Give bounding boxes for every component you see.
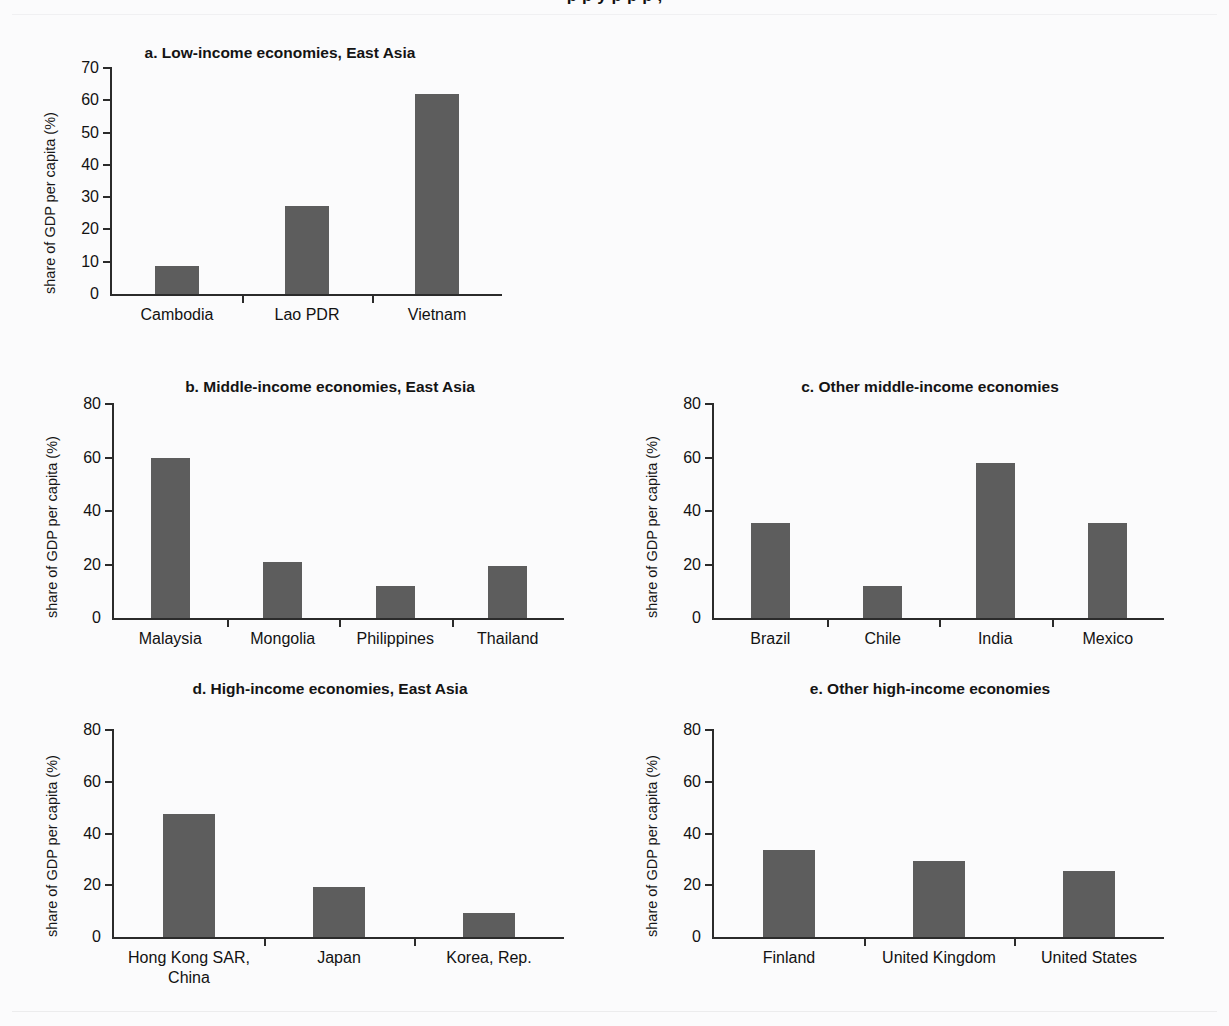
- y-tick-label-b-20: 20: [83, 556, 101, 574]
- bar-e-1: [913, 861, 965, 937]
- x-category-label-d-1: Japan: [264, 948, 414, 968]
- x-tick-a-1: [242, 294, 244, 303]
- bar-c-2: [976, 463, 1015, 618]
- x-tick-b-1: [227, 618, 229, 627]
- y-tick-label-c-0: 0: [692, 609, 701, 627]
- x-category-label-c-2: India: [939, 629, 1052, 649]
- y-tick-label-d-80: 80: [83, 721, 101, 739]
- x-category-label-c-1: Chile: [827, 629, 940, 649]
- y-tick-label-c-20: 20: [683, 556, 701, 574]
- x-category-label-b-1: Mongolia: [227, 629, 340, 649]
- y-tick-b-80: [105, 403, 114, 405]
- x-tick-d-2: [414, 937, 416, 946]
- x-category-label-e-1: United Kingdom: [864, 948, 1014, 968]
- bar-d-0: [163, 814, 215, 937]
- y-tick-a-50: [103, 132, 112, 134]
- page-edge-top: [12, 14, 1217, 15]
- y-axis-label-d: share of GDP per capita (%): [44, 755, 60, 937]
- x-category-label-d-2: Korea, Rep.: [414, 948, 564, 968]
- y-tick-label-b-0: 0: [92, 609, 101, 627]
- y-tick-b-40: [105, 510, 114, 512]
- y-tick-label-e-80: 80: [683, 721, 701, 739]
- x-category-label-b-0: Malaysia: [114, 629, 227, 649]
- bar-e-0: [763, 850, 815, 937]
- y-tick-a-40: [103, 164, 112, 166]
- bar-a-1: [285, 206, 330, 294]
- chart-panel-c: c. Other middle-income economiesshare of…: [640, 378, 1220, 658]
- y-tick-d-80: [105, 729, 114, 731]
- y-tick-label-a-0: 0: [90, 285, 99, 303]
- y-tick-label-a-20: 20: [81, 220, 99, 238]
- y-tick-a-20: [103, 228, 112, 230]
- y-axis-label-e: share of GDP per capita (%): [644, 755, 660, 937]
- y-tick-a-70: [103, 67, 112, 69]
- x-tick-b-2: [339, 618, 341, 627]
- x-tick-e-1: [864, 937, 866, 946]
- y-tick-label-e-60: 60: [683, 773, 701, 791]
- y-axis-label-b: share of GDP per capita (%): [44, 436, 60, 618]
- chart-panel-a: a. Low-income economies, East Asiashare …: [40, 44, 520, 314]
- plot-area-b: 020406080MalaysiaMongoliaPhilippinesThai…: [112, 404, 564, 620]
- x-category-label-a-1: Lao PDR: [242, 305, 372, 325]
- chart-panel-d: d. High-income economies, East Asiashare…: [40, 680, 620, 980]
- y-tick-label-e-20: 20: [683, 876, 701, 894]
- y-tick-label-e-40: 40: [683, 825, 701, 843]
- page-edge-bottom: [12, 1011, 1217, 1012]
- bar-b-3: [488, 566, 527, 618]
- panel-title-e: e. Other high-income economies: [640, 680, 1220, 698]
- y-tick-label-c-40: 40: [683, 502, 701, 520]
- x-category-label-c-0: Brazil: [714, 629, 827, 649]
- y-tick-label-b-40: 40: [83, 502, 101, 520]
- panel-title-a: a. Low-income economies, East Asia: [40, 44, 520, 62]
- y-tick-e-80: [705, 729, 714, 731]
- y-tick-label-d-60: 60: [83, 773, 101, 791]
- chart-panel-e: e. Other high-income economiesshare of G…: [640, 680, 1220, 980]
- x-category-label-a-2: Vietnam: [372, 305, 502, 325]
- y-tick-label-a-10: 10: [81, 253, 99, 271]
- y-tick-d-20: [105, 884, 114, 886]
- plot-area-e: 020406080FinlandUnited KingdomUnited Sta…: [712, 730, 1164, 939]
- panel-title-b: b. Middle-income economies, East Asia: [40, 378, 620, 396]
- cropped-figure-header: p p y p p p ,: [0, 0, 1229, 4]
- x-category-label-b-3: Thailand: [452, 629, 565, 649]
- y-tick-c-20: [705, 564, 714, 566]
- bar-b-1: [263, 562, 302, 618]
- y-tick-b-20: [105, 564, 114, 566]
- y-tick-label-b-80: 80: [83, 395, 101, 413]
- bar-d-2: [463, 913, 515, 937]
- x-tick-c-3: [1052, 618, 1054, 627]
- x-tick-b-3: [452, 618, 454, 627]
- plot-area-c: 020406080BrazilChileIndiaMexico: [712, 404, 1164, 620]
- y-tick-label-a-40: 40: [81, 156, 99, 174]
- chart-panel-b: b. Middle-income economies, East Asiasha…: [40, 378, 620, 658]
- bar-a-2: [415, 94, 460, 294]
- x-category-label-c-3: Mexico: [1052, 629, 1165, 649]
- y-tick-label-d-40: 40: [83, 825, 101, 843]
- y-tick-a-30: [103, 196, 112, 198]
- y-tick-c-80: [705, 403, 714, 405]
- plot-area-a: 010203040506070CambodiaLao PDRVietnam: [110, 68, 502, 296]
- y-tick-d-40: [105, 833, 114, 835]
- y-axis-label-c: share of GDP per capita (%): [644, 436, 660, 618]
- y-tick-label-a-30: 30: [81, 188, 99, 206]
- bar-b-0: [151, 458, 190, 619]
- x-tick-c-1: [827, 618, 829, 627]
- y-tick-e-60: [705, 781, 714, 783]
- bar-c-0: [751, 523, 790, 618]
- y-tick-e-40: [705, 833, 714, 835]
- y-tick-label-e-0: 0: [692, 928, 701, 946]
- x-category-label-d-0: Hong Kong SAR, China: [114, 948, 264, 988]
- panel-title-d: d. High-income economies, East Asia: [40, 680, 620, 698]
- y-tick-label-a-60: 60: [81, 91, 99, 109]
- y-tick-c-40: [705, 510, 714, 512]
- y-tick-a-10: [103, 261, 112, 263]
- panel-title-c: c. Other middle-income economies: [640, 378, 1220, 396]
- y-tick-label-a-50: 50: [81, 124, 99, 142]
- y-tick-b-60: [105, 457, 114, 459]
- x-category-label-e-0: Finland: [714, 948, 864, 968]
- y-tick-e-20: [705, 884, 714, 886]
- y-tick-label-a-70: 70: [81, 59, 99, 77]
- bar-c-3: [1088, 523, 1127, 618]
- y-tick-d-60: [105, 781, 114, 783]
- bar-e-2: [1063, 871, 1115, 937]
